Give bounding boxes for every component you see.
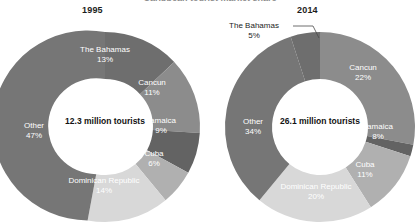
slice-cancun[interactable] (320, 32, 415, 145)
donut-chart-2014: 26.1 million tourists The Bahamas 5% Can… (225, 32, 415, 223)
label-name: The Bahamas (207, 21, 301, 31)
figure-title-cropped: Caribbean tourist market share (95, 0, 325, 4)
donut-slices-1995 (0, 30, 200, 222)
figure-title-text: Caribbean tourist market share (95, 0, 325, 3)
panel-year-1995: 1995 (82, 5, 103, 15)
donut-slices-2014 (225, 32, 415, 222)
donut-svg-1995 (10, 32, 200, 222)
panel-year-2014: 2014 (297, 5, 318, 15)
chart-figure: Caribbean tourist market share 1995 2014 (0, 0, 419, 223)
donut-svg-2014 (225, 32, 415, 222)
slice-other[interactable] (0, 30, 105, 220)
donut-chart-1995: 12.3 million tourists The Bahamas 13% Ca… (10, 32, 200, 223)
